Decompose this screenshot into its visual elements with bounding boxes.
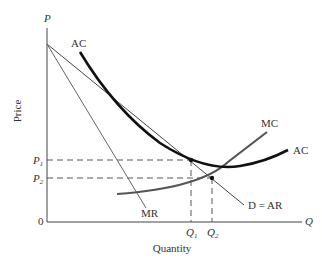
- x-axis-symbol: Q: [305, 215, 313, 227]
- p2-label: P2: [32, 172, 44, 186]
- demand-curve: [47, 44, 244, 205]
- ac-right-label: AC: [293, 144, 308, 156]
- mc-label: MC: [261, 117, 278, 129]
- mr-curve: [47, 44, 146, 208]
- ac-left-label: AC: [71, 37, 86, 49]
- mr-label: MR: [141, 207, 159, 219]
- q2-label: Q2: [207, 226, 219, 240]
- origin-label: 0: [38, 215, 44, 227]
- monopoly-diagram: P Q 0 Price Quantity AC AC MC MR D = AR …: [0, 0, 322, 268]
- y-axis-symbol: P: [43, 12, 51, 24]
- point-p1-q1: [189, 158, 193, 162]
- y-axis-label: Price: [11, 100, 23, 123]
- q1-label: Q1: [186, 226, 197, 240]
- demand-label: D = AR: [248, 199, 283, 211]
- point-p2-q2: [210, 176, 214, 180]
- p1-label: P1: [32, 154, 43, 168]
- x-axis-label: Quantity: [153, 242, 192, 254]
